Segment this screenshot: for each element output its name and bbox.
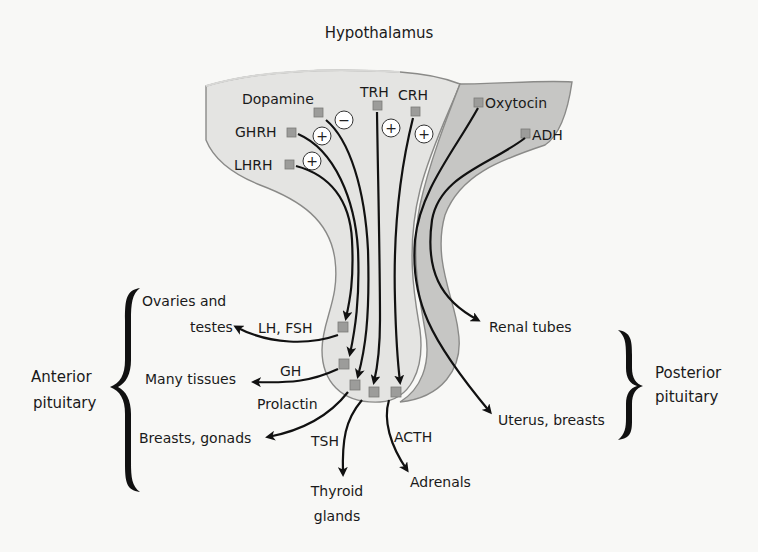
hormone-lh-fsh: LH, FSH <box>258 320 312 336</box>
target-thyroid-line1: Thyroid <box>310 483 364 499</box>
svg-text:+: + <box>418 126 430 142</box>
anterior-label-line2: pituitary <box>33 394 96 412</box>
posterior-brace <box>618 330 643 440</box>
target-breasts-gonads: Breasts, gonads <box>139 430 251 446</box>
label-oxytocin: Oxytocin <box>485 95 547 111</box>
svg-text:+: + <box>306 153 318 169</box>
hormone-tsh: TSH <box>310 433 339 449</box>
lhrh-stimulate-icon: + <box>303 152 321 170</box>
label-crh: CRH <box>398 87 428 103</box>
target-ovaries-line2: testes <box>190 319 233 335</box>
diagram-title: Hypothalamus <box>325 24 434 42</box>
target-ovaries-line1: Ovaries and <box>142 293 226 309</box>
svg-text:−: − <box>338 112 350 128</box>
label-adh: ADH <box>532 127 563 143</box>
hormone-gh: GH <box>280 363 301 379</box>
target-adrenals: Adrenals <box>410 474 471 490</box>
svg-text:+: + <box>385 120 397 136</box>
target-renal-tubes: Renal tubes <box>489 319 572 335</box>
anterior-brace <box>110 288 140 492</box>
crh-stimulate-icon: + <box>415 125 433 143</box>
ghrh-stimulate-icon: + <box>313 127 331 145</box>
trh-stimulate-icon: + <box>382 119 400 137</box>
anterior-label-line1: Anterior <box>31 368 92 386</box>
hormone-acth: ACTH <box>394 429 432 445</box>
dopamine-inhibit-icon: − <box>335 111 353 129</box>
hypothalamus-pituitary-diagram: Hypothalamus Dopamine GHRH LHRH TRH CRH … <box>0 0 758 552</box>
posterior-label-line2: pituitary <box>655 388 718 406</box>
posterior-label-line1: Posterior <box>655 364 722 382</box>
target-many-tissues: Many tissues <box>145 371 236 387</box>
svg-text:+: + <box>316 128 328 144</box>
label-trh: TRH <box>359 84 389 100</box>
target-uterus-breasts: Uterus, breasts <box>498 412 605 428</box>
label-dopamine: Dopamine <box>242 91 314 107</box>
label-lhrh: LHRH <box>234 157 273 173</box>
target-thyroid-line2: glands <box>314 508 360 524</box>
label-ghrh: GHRH <box>235 124 277 140</box>
hormone-prolactin: Prolactin <box>257 396 318 412</box>
